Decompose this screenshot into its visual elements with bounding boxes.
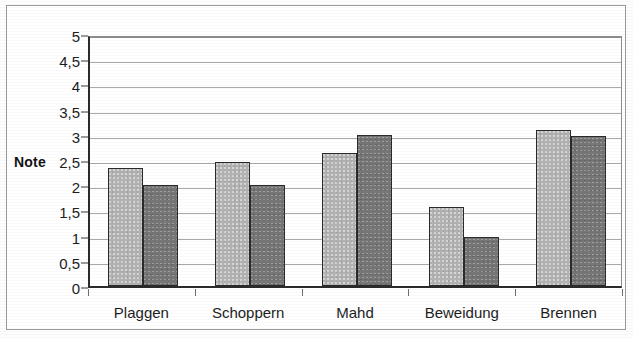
x-category-label: Beweidung bbox=[425, 305, 499, 320]
bar bbox=[429, 207, 464, 286]
bar-group bbox=[536, 37, 606, 286]
y-tick-label: 0,5 bbox=[6, 255, 80, 270]
x-tick-mark bbox=[408, 289, 409, 296]
y-tick-mark bbox=[81, 237, 88, 238]
x-tick-mark bbox=[302, 289, 303, 296]
y-tick-mark bbox=[81, 187, 88, 188]
bar bbox=[108, 168, 143, 286]
y-tick-label: 3 bbox=[6, 129, 80, 144]
y-tick-mark bbox=[81, 111, 88, 112]
bar bbox=[322, 153, 357, 286]
x-category-label: Brennen bbox=[540, 305, 597, 320]
bar-group bbox=[215, 37, 285, 286]
bar-group bbox=[108, 37, 178, 286]
chart-figure: Note 00,511,522,533,544,55 PlaggenSchopp… bbox=[0, 0, 633, 338]
bar bbox=[215, 162, 250, 286]
plot-area bbox=[88, 36, 622, 288]
bar bbox=[357, 135, 392, 286]
y-tick-label: 1,5 bbox=[6, 205, 80, 220]
x-category-label: Plaggen bbox=[114, 305, 169, 320]
x-tick-mark bbox=[622, 289, 623, 296]
y-tick-mark bbox=[81, 162, 88, 163]
bar bbox=[536, 130, 571, 286]
y-tick-label: 1 bbox=[6, 230, 80, 245]
x-tick-mark bbox=[195, 289, 196, 296]
y-tick-mark bbox=[81, 86, 88, 87]
y-tick-label: 4 bbox=[6, 79, 80, 94]
bar bbox=[571, 136, 606, 286]
y-tick-label: 3,5 bbox=[6, 104, 80, 119]
bar bbox=[464, 237, 499, 286]
x-category-label: Mahd bbox=[336, 305, 374, 320]
y-tick-mark bbox=[81, 136, 88, 137]
y-tick-label: 2,5 bbox=[6, 155, 80, 170]
y-tick-label: 2 bbox=[6, 180, 80, 195]
bar bbox=[143, 185, 178, 286]
bar bbox=[250, 185, 285, 286]
y-tick-label: 0 bbox=[6, 281, 80, 296]
y-tick-mark bbox=[81, 212, 88, 213]
y-tick-label: 5 bbox=[6, 29, 80, 44]
y-tick-label: 4,5 bbox=[6, 54, 80, 69]
x-tick-mark bbox=[515, 289, 516, 296]
x-tick-mark bbox=[88, 289, 89, 296]
y-tick-mark bbox=[81, 262, 88, 263]
y-tick-mark bbox=[81, 36, 88, 37]
y-tick-mark bbox=[81, 288, 88, 289]
y-tick-mark bbox=[81, 61, 88, 62]
x-category-label: Schoppern bbox=[212, 305, 285, 320]
bar-group bbox=[322, 37, 392, 286]
bar-group bbox=[429, 37, 499, 286]
